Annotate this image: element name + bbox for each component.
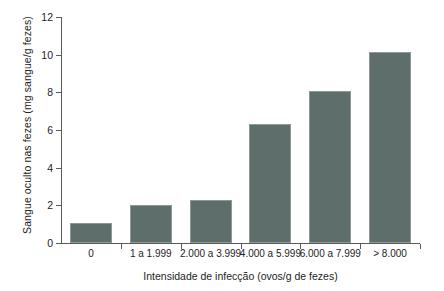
x-tick-label: 4.000 a 5.999 [240, 248, 301, 259]
y-tick-label: 2 [47, 199, 53, 211]
x-tick-label: 6.000 a 7.999 [300, 248, 361, 259]
y-tick-label: 12 [41, 11, 53, 23]
y-tick-label: 10 [41, 49, 53, 61]
x-tick-label: 0 [88, 248, 94, 259]
y-tick-label: 4 [47, 162, 53, 174]
x-tick-label: 2.000 a 3.999 [180, 248, 241, 259]
x-tick-label: > 8.000 [373, 248, 407, 259]
bar [249, 124, 291, 243]
bar [130, 205, 172, 243]
y-axis-title: Sangue oculto nas fezes (mg sangue/g fez… [18, 0, 36, 250]
bar [190, 200, 232, 243]
bar-chart-figure: Sangue oculto nas fezes (mg sangue/g fez… [0, 0, 444, 291]
plot-area: 024681012 [61, 17, 420, 243]
y-tick-mark [56, 92, 61, 93]
y-tick-label: 8 [47, 86, 53, 98]
y-tick-mark [56, 130, 61, 131]
bar [309, 91, 351, 243]
y-tick-mark [56, 205, 61, 206]
x-tick-label: 1 a 1.999 [130, 248, 172, 259]
bar [369, 52, 411, 243]
y-tick-mark [56, 17, 61, 18]
y-tick-mark [56, 243, 61, 244]
y-tick-mark [56, 168, 61, 169]
y-tick-mark [56, 55, 61, 56]
x-axis-tick-labels: 01 a 1.9992.000 a 3.9994.000 a 5.9996.00… [61, 248, 420, 264]
bar [70, 223, 112, 243]
x-axis-title: Intensidade de infecção (ovos/g de fezes… [61, 270, 420, 282]
x-tick-mark [420, 244, 421, 249]
y-tick-label: 0 [47, 237, 53, 249]
y-axis-line [61, 17, 62, 243]
y-tick-label: 6 [47, 124, 53, 136]
